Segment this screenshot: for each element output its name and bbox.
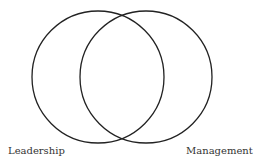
management-label: Management [186, 145, 253, 156]
leadership-label: Leadership [8, 145, 65, 156]
venn-diagram [0, 0, 260, 165]
